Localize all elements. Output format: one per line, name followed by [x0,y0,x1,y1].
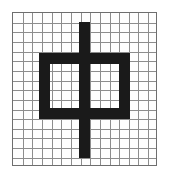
character-glyph [13,13,156,165]
box-bottom-horizontal-stroke [39,108,130,119]
worksheet-canvas: Chinese character grid practice sheet 中 … [0,0,172,182]
box-top-horizontal-stroke [39,53,130,64]
vertical-center-stroke [79,22,90,158]
character-grid-paper [12,12,157,166]
